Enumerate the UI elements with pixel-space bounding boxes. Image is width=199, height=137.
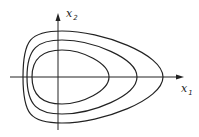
x2-axis-arrow-icon: [56, 13, 61, 21]
x1-axis-arrow-icon: [176, 75, 184, 80]
x1-axis-label: x1: [181, 82, 193, 97]
x2-axis-label: x2: [66, 7, 78, 22]
phase-portrait-diagram: x2 x1: [0, 0, 199, 137]
